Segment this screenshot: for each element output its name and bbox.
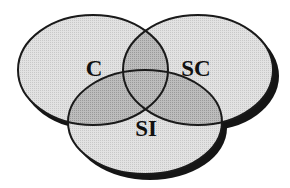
label-si: SI bbox=[135, 116, 157, 141]
label-c: C bbox=[86, 56, 103, 81]
venn-diagram: C SC SI bbox=[0, 0, 290, 188]
label-sc: SC bbox=[181, 56, 210, 81]
venn-svg: C SC SI bbox=[0, 0, 290, 188]
